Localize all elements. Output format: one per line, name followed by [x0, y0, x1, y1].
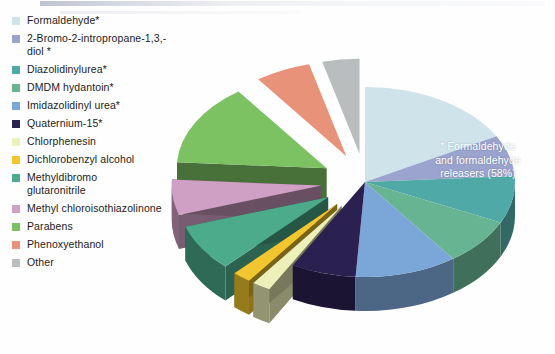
legend-swatch-icon	[12, 259, 20, 267]
legend-swatch-icon	[12, 205, 20, 213]
legend-item-label: Parabens	[27, 220, 73, 233]
legend-swatch-icon	[12, 241, 20, 249]
legend-item-label: Phenoxyethanol	[27, 238, 104, 251]
legend-item-label: Methyl chloroisothiazolinone	[27, 202, 162, 215]
legend-swatch-icon	[12, 102, 20, 110]
legend-swatch-icon	[12, 174, 20, 182]
legend-item-label: Chlorphenesin	[27, 135, 96, 148]
legend-swatch-icon	[12, 156, 20, 164]
legend-item-label: 2-Bromo-2-intropropane-1,3,- diol *	[27, 32, 166, 58]
legend-swatch-icon	[12, 66, 20, 74]
legend-item-label: Other	[27, 256, 54, 269]
legend-item-label: Methyldibromo glutaronitrile	[27, 171, 97, 197]
legend-item-label: Diazolidinylurea*	[27, 63, 107, 76]
legend-swatch-icon	[12, 120, 20, 128]
legend-swatch-icon	[12, 84, 20, 92]
figure-canvas: Formaldehyde* 2-Bromo-2-intropropane-1,3…	[0, 0, 555, 354]
pie-slice-side-chlorphenesin[interactable]	[253, 283, 269, 323]
legend-swatch-icon	[12, 35, 20, 43]
pie-chart: * Formaldehyde and formaldehyde releaser…	[160, 14, 555, 354]
legend-item-label: Imidazolidinyl urea*	[27, 99, 120, 112]
legend-item-label: DMDM hydantoin*	[27, 81, 114, 94]
legend-swatch-icon	[12, 17, 20, 25]
legend-item-label: Quaternium-15*	[27, 117, 103, 130]
legend-item-label: Formaldehyde*	[27, 14, 100, 27]
scan-artifact-strip-top	[40, 1, 545, 6]
legend-swatch-icon	[12, 223, 20, 231]
legend-item-label: Dichlorobenzyl alcohol	[27, 153, 134, 166]
legend-swatch-icon	[12, 138, 20, 146]
pie-chart-svg	[160, 14, 555, 354]
